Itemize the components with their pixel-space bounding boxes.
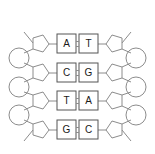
strand-terminus-line bbox=[24, 130, 33, 141]
right-backbone bbox=[98, 32, 146, 141]
phosphate-circle-icon bbox=[126, 48, 146, 68]
base-letter-left: C bbox=[63, 67, 70, 78]
base-letter-left: T bbox=[63, 95, 69, 106]
dna-diagram-page: A T C G T A G C bbox=[0, 0, 155, 154]
sugar-pentagon-icon bbox=[106, 64, 122, 81]
phosphate-circle-icon bbox=[126, 77, 146, 97]
sugar-pentagon-icon bbox=[106, 121, 122, 138]
base-letter-right: T bbox=[85, 38, 91, 49]
sugar-pentagon-icon bbox=[33, 92, 49, 109]
strand-terminus-line bbox=[122, 32, 131, 43]
left-backbone bbox=[9, 32, 57, 141]
phosphate-circle-icon bbox=[9, 77, 29, 97]
phosphate-circle-icon bbox=[9, 105, 29, 125]
strand-terminus-line bbox=[122, 130, 131, 141]
strand-terminus-line bbox=[24, 32, 33, 43]
phosphate-circle-icon bbox=[126, 105, 146, 125]
base-pair-rung: G C bbox=[57, 120, 98, 139]
sugar-pentagon-icon bbox=[33, 64, 49, 81]
base-pair-rung: T A bbox=[57, 91, 98, 110]
base-letter-right: G bbox=[85, 67, 93, 78]
base-letter-left: G bbox=[63, 124, 71, 135]
sugar-pentagon-icon bbox=[33, 121, 49, 138]
base-letter-left: A bbox=[63, 38, 70, 49]
phosphate-circle-icon bbox=[9, 48, 29, 68]
base-pair-rung: C G bbox=[57, 63, 98, 82]
sugar-pentagon-icon bbox=[106, 35, 122, 52]
base-letter-right: C bbox=[85, 124, 92, 135]
dna-structure-svg: A T C G T A G C bbox=[0, 0, 155, 154]
base-letter-right: A bbox=[85, 95, 92, 106]
sugar-pentagon-icon bbox=[106, 92, 122, 109]
sugar-pentagon-icon bbox=[33, 35, 49, 52]
base-pair-rung: A T bbox=[57, 34, 98, 53]
